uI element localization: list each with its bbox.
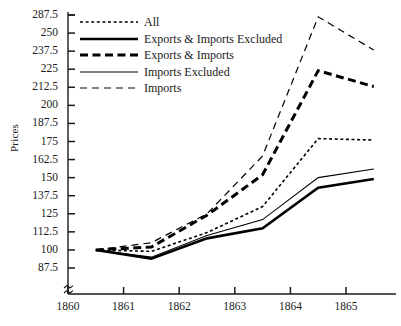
legend-item: Imports Excluded [78, 64, 282, 81]
legend-line-swatch [78, 48, 140, 62]
legend-line-swatch [78, 81, 140, 95]
price-index-line-chart: Prices 287.5250237.5225212.5200187.51751… [0, 0, 401, 326]
legend-label: Imports [144, 81, 181, 95]
legend-item: Imports [78, 80, 282, 97]
legend-line-swatch [78, 15, 140, 29]
legend-label: Exports & Imports Excluded [144, 32, 282, 46]
legend-label: Exports & Imports [144, 48, 234, 62]
legend-label: Imports Excluded [144, 65, 230, 79]
legend-line-swatch [78, 65, 140, 79]
legend-item: Exports & Imports Excluded [78, 31, 282, 48]
legend-label: All [144, 15, 159, 29]
legend-line-swatch [78, 32, 140, 46]
legend-item: All [78, 14, 282, 31]
chart-legend: AllExports & Imports ExcludedExports & I… [78, 14, 282, 97]
legend-item: Exports & Imports [78, 47, 282, 64]
series-line [96, 71, 374, 250]
